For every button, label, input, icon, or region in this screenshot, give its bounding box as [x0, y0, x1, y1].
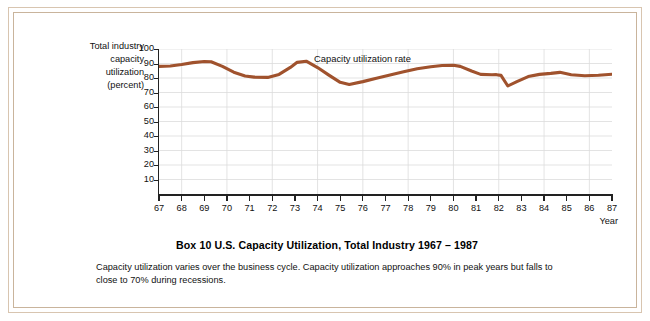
x-tick-label-68: 68	[171, 203, 193, 213]
x-tick-label-82: 82	[488, 203, 510, 213]
x-tick-label-67: 67	[148, 203, 170, 213]
plot-area	[159, 49, 612, 194]
x-tick-label-70: 70	[216, 203, 238, 213]
x-tick-label-74: 74	[307, 203, 329, 213]
x-tick-label-87: 87	[601, 203, 623, 213]
x-tick-mark-74	[317, 196, 318, 201]
x-tick-mark-79	[430, 196, 431, 201]
x-tick-label-77: 77	[375, 203, 397, 213]
y-tick-mark-60	[154, 107, 159, 108]
y-tick-mark-70	[154, 93, 159, 94]
x-tick-mark-77	[385, 196, 386, 201]
y-tick-label-70: 70	[130, 88, 154, 97]
x-tick-label-84: 84	[533, 203, 555, 213]
y-tick-mark-40	[154, 136, 159, 137]
figure-outer-border: Total industry capacity utilization (per…	[8, 7, 642, 313]
y-axis-tick-labels: 100908070605040302010	[130, 42, 154, 194]
figure-title: Box 10 U.S. Capacity Utilization, Total …	[14, 239, 636, 251]
caption-container: Box 10 U.S. Capacity Utilization, Total …	[14, 239, 636, 287]
x-tick-label-75: 75	[329, 203, 351, 213]
figure-inner-border: Total industry capacity utilization (per…	[13, 12, 637, 308]
x-tick-label-83: 83	[510, 203, 532, 213]
figure-caption: Capacity utilization varies over the bus…	[14, 261, 636, 287]
x-tick-mark-76	[362, 196, 363, 201]
y-tick-label-10: 10	[130, 175, 154, 184]
x-tick-mark-68	[181, 196, 182, 201]
x-tick-mark-86	[589, 196, 590, 201]
x-tick-label-69: 69	[193, 203, 215, 213]
x-axis-tick-labels: 6768697071727374757677787980818283848586…	[14, 203, 636, 217]
y-tick-label-100: 100	[130, 44, 154, 53]
x-tick-mark-81	[475, 196, 476, 201]
x-tick-mark-83	[521, 196, 522, 201]
y-tick-mark-90	[154, 64, 159, 65]
x-tick-mark-69	[204, 196, 205, 201]
y-tick-mark-10	[154, 180, 159, 181]
x-tick-label-73: 73	[284, 203, 306, 213]
x-tick-mark-70	[226, 196, 227, 201]
x-tick-label-79: 79	[420, 203, 442, 213]
y-tick-label-40: 40	[130, 131, 154, 140]
y-tick-mark-20	[154, 165, 159, 166]
x-tick-label-76: 76	[352, 203, 374, 213]
x-tick-label-80: 80	[442, 203, 464, 213]
y-tick-label-90: 90	[130, 59, 154, 68]
x-tick-label-72: 72	[261, 203, 283, 213]
x-tick-mark-75	[340, 196, 341, 201]
y-tick-label-50: 50	[130, 117, 154, 126]
y-tick-mark-50	[154, 122, 159, 123]
x-tick-mark-71	[249, 196, 250, 201]
y-tick-mark-30	[154, 151, 159, 152]
y-tick-label-60: 60	[130, 102, 154, 111]
y-tick-mark-100	[154, 49, 159, 50]
x-tick-label-78: 78	[397, 203, 419, 213]
x-tick-label-81: 81	[465, 203, 487, 213]
x-tick-label-71: 71	[239, 203, 261, 213]
chart-svg	[159, 49, 612, 194]
x-tick-mark-73	[294, 196, 295, 201]
y-tick-label-20: 20	[130, 160, 154, 169]
x-axis-title: Year	[574, 216, 618, 226]
x-tick-mark-85	[566, 196, 567, 201]
x-tick-mark-80	[453, 196, 454, 201]
x-tick-mark-72	[272, 196, 273, 201]
x-tick-mark-67	[158, 196, 159, 201]
y-tick-mark-80	[154, 78, 159, 79]
x-tick-mark-87	[611, 196, 612, 201]
y-tick-label-30: 30	[130, 146, 154, 155]
y-tick-label-80: 80	[130, 73, 154, 82]
x-tick-label-85: 85	[556, 203, 578, 213]
x-tick-mark-84	[543, 196, 544, 201]
series-annotation-label: Capacity utilization rate	[314, 53, 411, 64]
x-tick-mark-78	[408, 196, 409, 201]
chart-container: Total industry capacity utilization (per…	[14, 13, 636, 235]
x-tick-mark-82	[498, 196, 499, 201]
x-tick-label-86: 86	[578, 203, 600, 213]
